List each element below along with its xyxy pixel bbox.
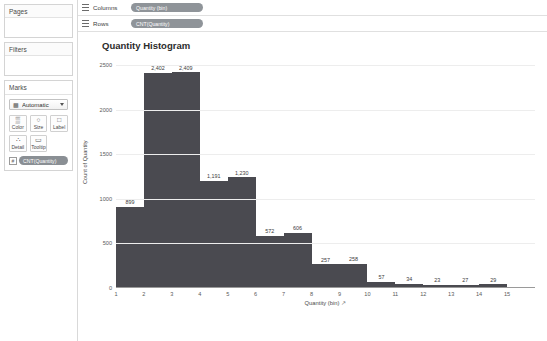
marks-buttons-grid: ▒ Color ○ Size □ Label ∴ Detail ▭ Tool xyxy=(9,115,68,152)
bar-mark[interactable] xyxy=(367,282,395,287)
marks-color-button[interactable]: ▒ Color xyxy=(9,115,27,132)
marks-label-button[interactable]: □ Label xyxy=(50,115,68,132)
marks-size-button[interactable]: ○ Size xyxy=(30,115,48,132)
visualization-canvas[interactable]: Quantity Histogram Count of Quantity 050… xyxy=(78,32,547,341)
x-axis-title-text: Quantity (bin) xyxy=(305,300,340,306)
tableau-worksheet: Pages Filters Marks ▩ Automatic ▒ Color … xyxy=(0,0,547,341)
marks-pill-cnt-quantity[interactable]: CNT(Quantity) xyxy=(19,156,68,165)
bar-value-label: 258 xyxy=(349,256,358,262)
color-palette-icon: ▒ xyxy=(16,117,21,124)
rows-shelf-label: Rows xyxy=(93,20,127,27)
y-axis-ticks: 05001000150020002500 xyxy=(88,56,114,288)
x-axis-tick-label: 15 xyxy=(504,291,510,297)
bar-value-label: 257 xyxy=(321,257,330,263)
sort-ascending-icon[interactable]: ↗ xyxy=(341,300,346,306)
gridline xyxy=(116,154,535,155)
x-axis-tick-label: 9 xyxy=(338,291,341,297)
bar-value-label: 23 xyxy=(434,277,440,283)
marks-tooltip-button[interactable]: ▭ Tooltip xyxy=(30,135,48,152)
marks-card-title: Marks xyxy=(5,81,72,95)
x-axis-tick-label: 2 xyxy=(142,291,145,297)
size-icon: ○ xyxy=(37,117,41,124)
y-axis-tick-label: 1000 xyxy=(100,196,112,202)
bar-slot: 257 xyxy=(312,56,340,287)
bar-slot: 606 xyxy=(284,56,312,287)
marks-size-label: Size xyxy=(34,124,44,130)
bar-slot: 57 xyxy=(367,56,395,287)
bar-mark[interactable] xyxy=(423,285,451,287)
x-axis-tick-label: 6 xyxy=(254,291,257,297)
marks-color-label: Color xyxy=(12,124,24,130)
x-axis-tick-label: 14 xyxy=(476,291,482,297)
bar-mark[interactable] xyxy=(312,264,340,287)
gridline xyxy=(116,110,535,111)
mark-type-dropdown[interactable]: ▩ Automatic xyxy=(9,99,68,110)
y-axis-tick-label: 1500 xyxy=(100,151,112,157)
bar-slot: 258 xyxy=(340,56,368,287)
bar-value-label: 1,191 xyxy=(207,173,221,179)
bar-mark[interactable] xyxy=(228,177,256,287)
filters-card-body[interactable] xyxy=(5,56,72,62)
x-axis-tick-label: 4 xyxy=(198,291,201,297)
x-axis-tick-label: 1 xyxy=(114,291,117,297)
y-axis-tick-label: 2500 xyxy=(100,62,112,68)
bar-mark[interactable] xyxy=(284,233,312,287)
mark-type-value: Automatic xyxy=(22,102,57,108)
bar-mark[interactable] xyxy=(116,207,144,287)
bar-mark[interactable] xyxy=(200,181,228,287)
tooltip-icon: ▭ xyxy=(35,137,42,144)
bars-container: 8992,4022,4091,1911,23057260625725857342… xyxy=(116,56,535,287)
gridline xyxy=(116,243,535,244)
bar-value-label: 572 xyxy=(265,228,274,234)
bar-slot: 2,402 xyxy=(144,56,172,287)
bar-value-label: 57 xyxy=(378,274,384,280)
x-axis-tick-label: 5 xyxy=(226,291,229,297)
y-axis-tick-label: 500 xyxy=(103,240,112,246)
filters-card[interactable]: Filters xyxy=(4,42,73,76)
left-shelf-panel: Pages Filters Marks ▩ Automatic ▒ Color … xyxy=(0,0,78,341)
marks-pill-row[interactable]: # CNT(Quantity) xyxy=(9,156,68,165)
bar-mark[interactable] xyxy=(451,285,479,287)
bar-slot: 34 xyxy=(395,56,423,287)
shelves-region: Columns Quantity (bin) Rows CNT(Quantity… xyxy=(78,0,547,32)
columns-shelf[interactable]: Columns Quantity (bin) xyxy=(78,0,547,16)
bar-mark[interactable] xyxy=(144,73,172,287)
label-icon: □ xyxy=(57,117,61,124)
bar-slot: 1,230 xyxy=(228,56,256,287)
filters-card-title: Filters xyxy=(5,43,72,56)
x-axis-tick-label: 13 xyxy=(448,291,454,297)
x-axis-title: Quantity (bin)↗ xyxy=(116,300,535,306)
bar-slot: 899 xyxy=(116,56,144,287)
columns-grid-icon xyxy=(82,4,89,11)
bar-chart-icon: ▩ xyxy=(13,101,19,108)
bar-value-label: 34 xyxy=(406,276,412,282)
x-axis-tick-label: 11 xyxy=(392,291,398,297)
marks-detail-label: Detail xyxy=(11,144,24,150)
marks-detail-button[interactable]: ∴ Detail xyxy=(9,135,27,152)
rows-shelf[interactable]: Rows CNT(Quantity) xyxy=(78,16,547,32)
measure-icon: # xyxy=(9,157,17,165)
bar-slot: 2,409 xyxy=(172,56,200,287)
bar-slot xyxy=(507,56,535,287)
bar-mark[interactable] xyxy=(340,264,368,287)
chart-grid-area: 8992,4022,4091,1911,23057260625725857342… xyxy=(116,56,535,288)
gridline xyxy=(116,65,535,66)
x-axis-tick-label: 12 xyxy=(420,291,426,297)
bar-slot: 29 xyxy=(479,56,507,287)
bar-value-label: 2,402 xyxy=(151,65,165,71)
columns-shelf-label: Columns xyxy=(93,4,127,11)
bar-mark[interactable] xyxy=(479,284,507,287)
rows-pill-cnt-quantity[interactable]: CNT(Quantity) xyxy=(131,19,203,28)
bar-mark[interactable] xyxy=(172,72,200,287)
pages-card-title: Pages xyxy=(5,5,72,18)
x-axis-tick-label: 7 xyxy=(282,291,285,297)
bar-mark[interactable] xyxy=(395,284,423,287)
pages-card-body[interactable] xyxy=(5,18,72,24)
y-axis-tick-label: 0 xyxy=(109,285,112,291)
bar-slot: 27 xyxy=(451,56,479,287)
bar-value-label: 29 xyxy=(490,277,496,283)
bar-slot: 23 xyxy=(423,56,451,287)
columns-pill-quantity-bin[interactable]: Quantity (bin) xyxy=(131,3,203,12)
pages-card[interactable]: Pages xyxy=(4,4,73,38)
x-axis-tick-label: 10 xyxy=(364,291,370,297)
